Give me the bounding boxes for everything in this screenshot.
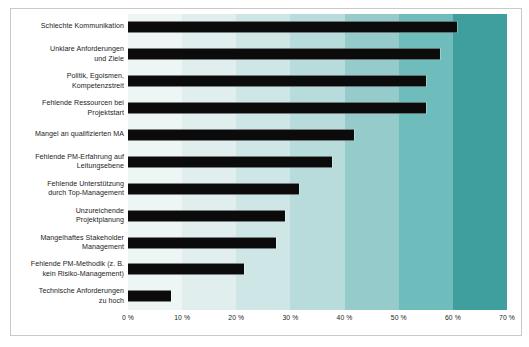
x-tick-label: 0 % (122, 314, 134, 321)
category-label: Unklare Anforderungen und Ziele (12, 45, 124, 64)
bar-row: Fehlende Ressourcen bei Projektstart (128, 95, 507, 122)
category-label: Unzureichende Projektplanung (12, 206, 124, 225)
category-label: Technische Anforderungen zu hoch (12, 287, 124, 306)
bar-row: Fehlende PM-Methodik (z. B. kein Risiko-… (128, 256, 507, 283)
x-tick-label: 10 % (174, 314, 190, 321)
bar-row: Fehlende PM-Erfahrung auf Leitungsebene (128, 148, 507, 175)
bar (128, 130, 354, 141)
bar (128, 210, 285, 221)
x-axis: 0 %10 %20 %30 %40 %50 %60 %70 % (128, 312, 507, 330)
category-label: Fehlende PM-Erfahrung auf Leitungsebene (12, 152, 124, 171)
category-label: Fehlende Unterstützung durch Top-Managem… (12, 179, 124, 198)
bar-row: Technische Anforderungen zu hoch (128, 283, 507, 310)
bar-row: Unklare Anforderungen und Ziele (128, 41, 507, 68)
category-label: Schlechte Kommunikation (12, 23, 124, 32)
bar (128, 49, 440, 60)
bar (128, 183, 299, 194)
chart-figure: Schlechte KommunikationUnklare Anforderu… (10, 8, 522, 336)
x-tick-label: 60 % (445, 314, 461, 321)
bar (128, 237, 276, 248)
plot-area: Schlechte KommunikationUnklare Anforderu… (128, 14, 507, 310)
bar-row: Politik, Egoismen, Kompetenzstreit (128, 68, 507, 95)
bar-row: Fehlende Unterstützung durch Top-Managem… (128, 175, 507, 202)
x-tick-label: 50 % (391, 314, 407, 321)
bar (128, 156, 332, 167)
x-tick-label: 20 % (228, 314, 244, 321)
bar (128, 103, 426, 114)
x-tick-label: 40 % (337, 314, 353, 321)
x-tick-label: 30 % (282, 314, 298, 321)
bar (128, 22, 457, 33)
bar-rows: Schlechte KommunikationUnklare Anforderu… (128, 14, 507, 310)
bar-row: Schlechte Kommunikation (128, 14, 507, 41)
bar (128, 264, 244, 275)
bar (128, 76, 426, 87)
x-tick-label: 70 % (499, 314, 515, 321)
category-label: Mangel an qualifizierten MA (12, 130, 124, 139)
category-label: Fehlende Ressourcen bei Projektstart (12, 99, 124, 118)
bar-row: Unzureichende Projektplanung (128, 202, 507, 229)
bar-row: Mangel an qualifizierten MA (128, 122, 507, 149)
category-label: Fehlende PM-Methodik (z. B. kein Risiko-… (12, 260, 124, 279)
category-label: Politik, Egoismen, Kompetenzstreit (12, 72, 124, 91)
bar-row: Mangelhaftes Stakeholder Management (128, 229, 507, 256)
category-label: Mangelhaftes Stakeholder Management (12, 233, 124, 252)
bar (128, 291, 171, 302)
